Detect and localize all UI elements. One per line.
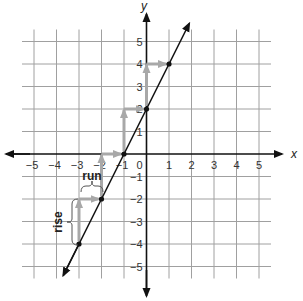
plotted-line — [63, 24, 189, 276]
x-tick-label: 1 — [166, 159, 172, 171]
y-tick-label: 4 — [136, 58, 142, 70]
y-tick-label: −3 — [130, 216, 143, 228]
origin-label: 0 — [136, 159, 142, 171]
x-tick-label: 2 — [188, 159, 194, 171]
y-tick-label: −2 — [130, 193, 143, 205]
y-tick-label: −1 — [130, 171, 143, 183]
y-tick-label: −4 — [130, 238, 143, 250]
data-point — [99, 196, 104, 201]
line-forward — [63, 24, 189, 276]
x-tick-label: 3 — [211, 159, 217, 171]
data-point — [144, 106, 149, 111]
data-point — [121, 151, 126, 156]
line-backward-arrow — [63, 244, 79, 276]
axes — [6, 14, 282, 296]
data-point — [76, 241, 81, 246]
rise-label: rise — [51, 211, 65, 233]
y-tick-label: 5 — [136, 36, 142, 48]
y-axis-label: y — [140, 0, 148, 13]
data-point — [166, 61, 171, 66]
run-label: run — [82, 169, 101, 183]
annotations: run rise — [51, 169, 103, 245]
x-tick-label: −5 — [26, 159, 39, 171]
y-tick-label: 3 — [136, 81, 142, 93]
x-tick-label: 4 — [233, 159, 239, 171]
coordinate-plane: −5−4−3−2−11234554321−1−2−3−4−50 run rise… — [0, 0, 303, 301]
x-tick-label: −4 — [48, 159, 61, 171]
y-tick-label: −5 — [130, 261, 143, 273]
x-tick-label: 5 — [256, 159, 262, 171]
x-axis-label: x — [290, 147, 298, 161]
